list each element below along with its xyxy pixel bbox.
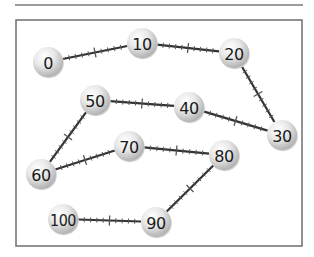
node-label: 70: [119, 138, 139, 157]
number-path-diagram: 0102030405060708090100: [0, 0, 314, 257]
unit-tick: [169, 43, 170, 48]
unit-tick: [175, 44, 176, 49]
unit-tick: [206, 48, 207, 53]
node-label: 10: [132, 35, 152, 54]
node-label: 90: [146, 214, 166, 233]
node-label: 100: [50, 211, 76, 230]
node-label: 30: [272, 127, 292, 146]
node-label: 80: [214, 147, 234, 166]
midpoint-tick: [142, 99, 143, 109]
unit-tick: [182, 45, 183, 50]
node-label: 50: [85, 92, 105, 111]
unit-tick: [213, 48, 214, 53]
node-label: 0: [43, 54, 53, 73]
unit-tick: [194, 46, 195, 51]
node-label: 20: [224, 45, 244, 64]
unit-tick: [163, 43, 164, 48]
unit-tick: [200, 47, 201, 52]
node-label: 60: [31, 166, 51, 185]
node-label: 40: [179, 99, 199, 118]
